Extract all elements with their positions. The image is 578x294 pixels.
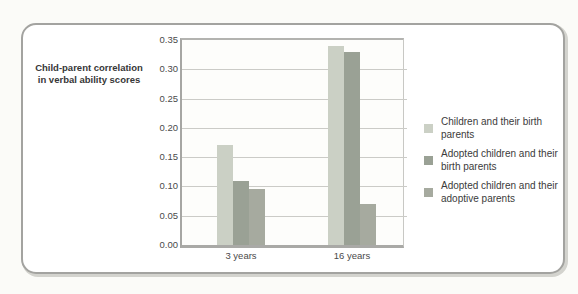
legend-entry-birth-children: Children and their birth parents xyxy=(424,116,564,141)
x-axis-labels: 3 years16 years xyxy=(182,250,403,266)
y-tick-0.25: 0.25 xyxy=(132,93,178,105)
bar-16-years-series2 xyxy=(344,52,360,245)
bar-16-years-series1 xyxy=(328,46,344,245)
y-tick-0.10: 0.10 xyxy=(132,180,178,192)
gridline-0.15 xyxy=(182,157,407,158)
legend-entry-adopted-birth: Adopted children and their birth parents xyxy=(424,148,564,173)
y-tick-0.20: 0.20 xyxy=(132,122,178,134)
legend: Children and their birth parents Adopted… xyxy=(424,116,564,212)
y-tick-0.15: 0.15 xyxy=(132,151,178,163)
gridline-0.25 xyxy=(182,99,407,100)
bar-3-years-series2 xyxy=(233,181,249,245)
legend-entry-adopted-adoptive: Adopted children and their adoptive pare… xyxy=(424,180,564,205)
legend-label-series2: Adopted children and their birth parents xyxy=(441,148,559,173)
gridline-0.10 xyxy=(182,186,407,187)
figure: Child-parent correlation in verbal abili… xyxy=(0,0,578,294)
y-tick-0.00: 0.00 xyxy=(132,239,178,251)
bar-3-years-series3 xyxy=(249,189,265,245)
legend-swatch-series2 xyxy=(424,156,433,165)
y-tick-0.35: 0.35 xyxy=(132,34,178,46)
legend-label-series1: Children and their birth parents xyxy=(441,116,559,141)
x-axis-label-3-years: 3 years xyxy=(225,250,256,261)
gridline-0.20 xyxy=(182,128,407,129)
gridline-0.30 xyxy=(182,69,407,70)
legend-swatch-series3 xyxy=(424,188,433,197)
y-tick-0.30: 0.30 xyxy=(132,63,178,75)
bar-16-years-series3 xyxy=(360,204,376,245)
bar-3-years-series1 xyxy=(217,145,233,245)
plot-area xyxy=(180,38,404,248)
y-axis-tick-labels: 0.000.050.100.150.200.250.300.35 xyxy=(132,0,178,294)
legend-label-series3: Adopted children and their adoptive pare… xyxy=(441,180,559,205)
y-tick-0.05: 0.05 xyxy=(132,210,178,222)
x-axis-label-16-years: 16 years xyxy=(334,250,370,261)
legend-swatch-series1 xyxy=(424,124,433,133)
